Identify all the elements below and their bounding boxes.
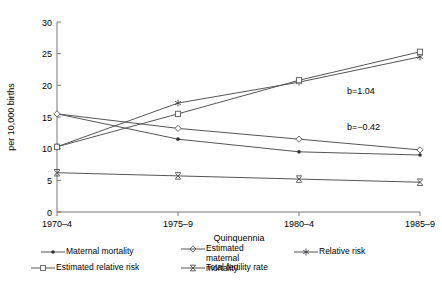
legend-label: Maternal mortality (66, 246, 134, 256)
diamond-marker-icon (180, 244, 206, 254)
legend-item-total-fertility-rate: Total fertility rate (180, 262, 268, 273)
annotation-slope-positive: b=1.04 (347, 86, 375, 96)
series-maternal-mortality (55, 112, 422, 157)
svg-text:1980–4: 1980–4 (284, 219, 314, 229)
series-total-fertility-rate (54, 170, 423, 186)
svg-text:1970–4: 1970–4 (42, 219, 72, 229)
svg-text:5: 5 (47, 176, 52, 186)
legend-item-estimated-relative-risk: Estimated relative risk (30, 262, 139, 273)
chart-figure: 0510152025301970–41975–91980–41985–9Quin… (0, 0, 442, 292)
x-bar-marker-icon (180, 263, 206, 273)
series-estimated-relative-risk (54, 49, 422, 149)
svg-text:25: 25 (42, 49, 52, 59)
svg-text:0: 0 (47, 208, 52, 218)
annotation-slope-negative: b=−0.42 (347, 122, 380, 132)
chart-legend: Maternal mortality Estimated maternal mo… (40, 246, 440, 290)
svg-text:20: 20 (42, 81, 52, 91)
legend-label: Relative risk (319, 246, 365, 256)
svg-text:1985–9: 1985–9 (405, 219, 435, 229)
svg-text:per 10,000 births: per 10,000 births (6, 83, 16, 151)
dot-marker-icon (40, 247, 66, 257)
series-relative-risk (54, 53, 423, 150)
svg-text:Quinquennia: Quinquennia (213, 233, 264, 243)
legend-label: Total fertility rate (206, 262, 268, 272)
svg-text:30: 30 (42, 18, 52, 28)
svg-text:1975–9: 1975–9 (163, 219, 193, 229)
legend-label: Estimated relative risk (56, 262, 139, 272)
square-marker-icon (30, 263, 56, 273)
svg-text:10: 10 (42, 144, 52, 154)
svg-text:15: 15 (42, 113, 52, 123)
legend-item-relative-risk: Relative risk (293, 246, 365, 257)
legend-item-maternal-mortality: Maternal mortality (40, 246, 134, 257)
asterisk-marker-icon (293, 247, 319, 257)
